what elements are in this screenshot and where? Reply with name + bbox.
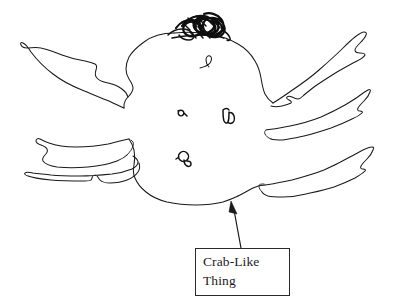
scribble-mass-group	[168, 13, 230, 40]
interior-marks-group	[176, 56, 234, 167]
legs-right-group	[259, 32, 374, 197]
leg-lower-right	[262, 147, 374, 197]
callout-arrowhead-icon	[229, 201, 237, 214]
body-outline-group	[124, 32, 273, 205]
interior-mark-bottom	[176, 152, 191, 167]
diagram-canvas: Crab-Like Thing	[0, 0, 409, 307]
callout-label-box[interactable]: Crab-Like Thing	[195, 248, 290, 296]
callout-leader-line	[234, 210, 241, 248]
leg-middle-right-inner	[265, 130, 271, 139]
callout-label-line-1: Crab-Like	[203, 252, 289, 271]
body-outline-left-lower	[129, 139, 238, 205]
hook-squiggle-icon	[200, 56, 212, 68]
leg-lower-left	[25, 156, 140, 183]
interior-mark-right	[223, 109, 234, 124]
legs-left-group	[21, 43, 140, 183]
leg-upper-right	[271, 32, 366, 107]
body-outline	[124, 33, 174, 108]
leg-middle-left	[36, 139, 129, 168]
callout-leader-group	[229, 201, 241, 248]
leg-upper-left	[21, 43, 128, 108]
body-outline-right-upper	[174, 32, 273, 103]
leg-middle-left-inner	[127, 140, 133, 155]
interior-mark-left	[178, 110, 187, 116]
callout-label-line-2: Thing	[203, 271, 289, 290]
